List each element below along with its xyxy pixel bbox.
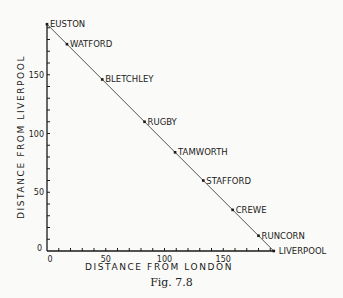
y-axis-label: DISTANCE FROM LIVERPOOL — [16, 55, 26, 219]
y-tick-label: 100 — [29, 130, 44, 139]
x-axis-label: DISTANCE FROM LONDON — [85, 262, 233, 272]
station-marker — [231, 209, 234, 212]
station-label: CREWE — [236, 205, 267, 215]
station-marker — [101, 78, 104, 81]
station-label: WATFORD — [70, 39, 113, 49]
chart: 050100150050100150 EUSTONWATFORDBLETCHLE… — [0, 0, 343, 275]
station-label: EUSTON — [50, 19, 85, 29]
station-marker — [143, 120, 146, 123]
station-marker — [66, 43, 69, 46]
station-marker — [272, 250, 275, 253]
x-tick-label: 0 — [47, 255, 52, 264]
y-tick-label: 50 — [34, 188, 44, 197]
station-label: RUNCORN — [262, 231, 305, 241]
distance-line — [47, 24, 274, 251]
station-marker — [174, 151, 177, 154]
station-label: BLETCHLEY — [105, 74, 154, 84]
axes: 050100150050100150 — [29, 24, 274, 264]
station-label: STAFFORD — [206, 176, 251, 186]
y-tick-label: 150 — [29, 71, 44, 80]
y-tick-label: 0 — [37, 244, 42, 253]
station-marker — [202, 179, 205, 182]
station-label: TAMWORTH — [177, 147, 228, 157]
station-label: RUGBY — [148, 117, 178, 127]
station-label: LIVERPOOL — [279, 246, 327, 256]
data-series: EUSTONWATFORDBLETCHLEYRUGBYTAMWORTHSTAFF… — [46, 19, 327, 256]
station-marker — [46, 23, 49, 26]
figure-caption: Fig. 7.8 — [0, 276, 343, 289]
station-marker — [257, 234, 260, 237]
